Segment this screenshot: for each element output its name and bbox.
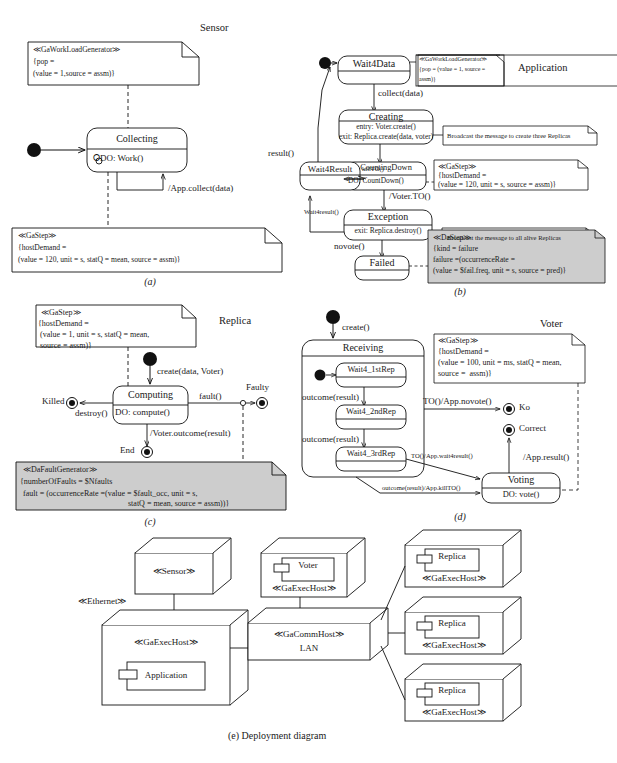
node-lan-label: LAN xyxy=(248,643,370,653)
note-gastep-a-line1: {hostDemand = xyxy=(18,243,66,252)
note-gastep-a-stereotype: ≪GaStep≫ xyxy=(18,231,56,240)
node-gacommhost-label[interactable]: ≪GaCommHost≫ xyxy=(248,629,370,639)
transition-create-data-voter: create(data, Voter) xyxy=(157,366,223,376)
figure-caption-e: (e) Deployment diagram xyxy=(228,730,326,741)
state-wait4-2ndrep[interactable]: Wait4_2ndRep xyxy=(336,407,406,416)
state-creating-entry: entry: Voter.create() xyxy=(339,123,433,131)
state-countingdown-do: DO: CountDown() xyxy=(348,177,428,185)
panel-caption-a: (a) xyxy=(110,276,190,287)
state-voting-activity: DO: vote() xyxy=(482,490,560,499)
node-sensor-label[interactable]: ≪Sensor≫ xyxy=(135,566,213,576)
transition-app-result: /App.result() xyxy=(523,452,569,462)
node-gaexechost-voter-label[interactable]: ≪GaExecHost≫ xyxy=(261,583,347,593)
note-dafaultgenerator-line3: statQ = mean, source = assm))} xyxy=(128,499,229,509)
note-gastep-c-stereotype: ≪GaStep≫ xyxy=(41,308,81,318)
node-gaexechost-app-label[interactable]: ≪GaExecHost≫ xyxy=(102,637,230,647)
state-creating[interactable]: Creating xyxy=(339,111,433,122)
note-gastep-a-line2: (value = 120, unit = s, statQ = mean, so… xyxy=(18,255,181,264)
note-dastep-line3: (value = $fail.freq, unit = s, source = … xyxy=(433,266,566,275)
component-voter-label[interactable]: Voter xyxy=(282,560,334,570)
component-replica-3-label[interactable]: Replica xyxy=(425,685,479,695)
state-exception[interactable]: Exception xyxy=(344,211,432,222)
note-gastep-c-line1: {hostDemand = xyxy=(38,319,89,329)
note-gastep-d-line3: source = assm)} xyxy=(438,369,492,379)
transition-outcome-killto: outcome(result)/App.killTO() xyxy=(382,484,460,491)
state-computing-activity: DO: compute() xyxy=(115,407,190,417)
final-ko-label: Ko xyxy=(519,402,530,412)
state-wait4-3rdrep[interactable]: Wait4_3rdRep xyxy=(336,449,406,458)
state-wait4data[interactable]: Wait4Data xyxy=(338,58,410,69)
node-gaexechost-replica-2-label[interactable]: ≪GaExecHost≫ xyxy=(405,640,503,650)
transition-novote: novote() xyxy=(334,241,365,251)
state-exception-exit: exit: Replica.destroy() xyxy=(344,227,432,235)
note-gaworkloadgenerator-b-line2: assm)} xyxy=(419,76,436,84)
state-creating-exit: exit: Replica.create(data, voter) xyxy=(337,133,435,141)
transition-app-collect: /App.collect(data) xyxy=(168,183,233,193)
note-gaworkloadgenerator-a-line1: {pop = xyxy=(33,57,54,66)
panel-caption-d: (d) xyxy=(420,511,500,522)
state-countingdown[interactable]: CountingDown xyxy=(346,163,426,172)
note-gastep-d-stereotype: ≪GaStep≫ xyxy=(438,336,478,346)
transition-collect-data: collect(data) xyxy=(378,88,423,98)
state-collecting-name[interactable]: Collecting xyxy=(87,133,187,144)
note-gastep-b-line2: (value = 120, unit = s, source = assm)} xyxy=(438,180,556,189)
note-dastep-line2: failure =(occurrenceRate = xyxy=(433,255,515,264)
transition-create: create() xyxy=(342,322,369,332)
state-computing[interactable]: Computing xyxy=(113,389,188,400)
transition-fault: fault() xyxy=(199,391,222,401)
component-replica-1-label[interactable]: Replica xyxy=(425,551,479,561)
link-ethernet-label: ≪Ethernet≫ xyxy=(78,596,127,606)
note-gaworkloadgenerator-b-stereotype: ≪GaWorkLoadGenerator≫ xyxy=(419,56,488,64)
note-dafaultgenerator-stereotype: ≪DaFaultGenerator≫ xyxy=(23,465,97,475)
node-gaexechost-replica-1-label[interactable]: ≪GaExecHost≫ xyxy=(405,573,503,583)
panel-c-title: Replica xyxy=(219,315,251,327)
state-voting[interactable]: Voting xyxy=(482,474,560,485)
transition-wait4result: Wait4result() xyxy=(304,208,339,215)
transition-result: result() xyxy=(268,148,294,158)
panel-caption-c: (c) xyxy=(110,516,190,527)
component-application-label[interactable]: Application xyxy=(127,670,205,680)
final-end-label: End xyxy=(120,445,135,455)
note-dastep-stereotype: ≪DaStep≫ xyxy=(433,233,471,242)
state-collecting-activity: ⭘DO: Work() xyxy=(93,153,193,163)
state-wait4-1strep[interactable]: Wait4_1stRep xyxy=(336,365,406,374)
note-gastep-c-line3: source = assm)} xyxy=(40,341,92,351)
note-broadcast-replicas: Broadcast the message to create three Re… xyxy=(447,132,570,140)
note-gastep-d-line2: (value = 100, unit = ms, statQ = mean, xyxy=(438,358,562,368)
panel-a-title: Sensor xyxy=(200,22,229,34)
note-gaworkloadgenerator-a-line2: (value = 1,source = assm)} xyxy=(33,69,115,78)
note-dafaultgenerator-line1: {numberOfFaults = $Nfaults xyxy=(20,477,112,487)
final-correct-label: Correct xyxy=(519,423,546,433)
note-gastep-d-line1: {hostDemand = xyxy=(438,347,489,357)
final-killed-label: Killed xyxy=(42,396,65,406)
transition-to-wait4result: TO()/App.wait4result() xyxy=(411,452,473,459)
transition-outcome-1: outcome(result) xyxy=(302,392,359,402)
transition-voter-outcome: /Voter.outcome(result) xyxy=(150,428,231,438)
node-gaexechost-replica-3-label[interactable]: ≪GaExecHost≫ xyxy=(405,707,503,717)
state-failed[interactable]: Failed xyxy=(355,257,409,268)
note-gastep-c-line2: (value = 1, unit = s, statQ = mean, xyxy=(40,330,149,340)
panel-b-title: Application xyxy=(518,62,568,74)
transition-destroy: destroy() xyxy=(75,408,108,418)
note-dafaultgenerator-line2: fault = (occurrenceRate =(value = $fault… xyxy=(23,489,197,499)
transition-outcome-2: outcome(result) xyxy=(302,434,359,444)
panel-caption-b: (b) xyxy=(420,286,500,297)
transition-voter-to: /Voter.TO() xyxy=(389,191,430,201)
note-gaworkloadgenerator-b-line1: {pop = (value = 1, source = xyxy=(419,66,485,74)
transition-to-novote: TO()/App.novote() xyxy=(423,396,492,406)
component-replica-2-label[interactable]: Replica xyxy=(425,618,479,628)
note-gaworkloadgenerator-a-stereotype: ≪GaWorkLoadGenerator≫ xyxy=(33,45,121,54)
state-receiving[interactable]: Receiving xyxy=(302,342,424,353)
panel-d-title: Voter xyxy=(540,318,563,330)
note-dastep-line1: {kind = failure xyxy=(433,244,478,253)
final-faulty-label: Faulty xyxy=(246,382,269,392)
